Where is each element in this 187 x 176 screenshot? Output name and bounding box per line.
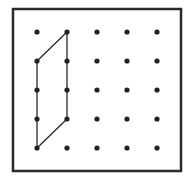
- geoboard: [0, 0, 187, 176]
- peg-dot: [94, 87, 99, 92]
- peg-dot: [94, 116, 99, 121]
- peg-dot: [124, 87, 129, 92]
- peg-dot: [34, 29, 39, 34]
- peg-dot: [64, 116, 69, 121]
- peg-dot: [64, 29, 69, 34]
- parallelogram-shape: [37, 32, 67, 148]
- peg-dot: [94, 58, 99, 63]
- peg-dot: [34, 58, 39, 63]
- peg-dot: [64, 87, 69, 92]
- peg-dot: [154, 145, 159, 150]
- peg-dot: [124, 116, 129, 121]
- peg-dot: [64, 58, 69, 63]
- peg-dot: [154, 29, 159, 34]
- peg-dot: [34, 87, 39, 92]
- peg-dot: [154, 58, 159, 63]
- peg-dot: [154, 116, 159, 121]
- peg-dot: [34, 145, 39, 150]
- peg-dot: [94, 29, 99, 34]
- peg-dot: [154, 87, 159, 92]
- peg-dot: [94, 145, 99, 150]
- peg-dot: [124, 145, 129, 150]
- peg-dot: [34, 116, 39, 121]
- peg-dot: [64, 145, 69, 150]
- peg-dot: [124, 58, 129, 63]
- peg-dot: [124, 29, 129, 34]
